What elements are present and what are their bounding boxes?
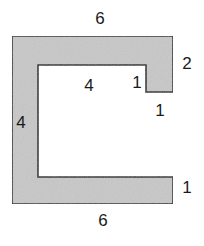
c-shape-polygon bbox=[12, 36, 173, 204]
shape-svg bbox=[0, 0, 204, 246]
label-notch-bottom: 1 bbox=[155, 102, 164, 119]
c-shape-diagram: 6 2 1 4 1 4 1 6 bbox=[0, 0, 204, 246]
label-notch-inner-vertical: 1 bbox=[132, 74, 141, 91]
label-bottom-width: 6 bbox=[98, 212, 107, 229]
label-right-top-height: 2 bbox=[182, 55, 191, 72]
label-top-width: 6 bbox=[95, 10, 104, 27]
label-inner-top-width: 4 bbox=[84, 77, 93, 94]
label-inner-left-height: 4 bbox=[16, 114, 25, 131]
label-right-bottom-height: 1 bbox=[182, 179, 191, 196]
